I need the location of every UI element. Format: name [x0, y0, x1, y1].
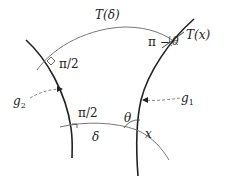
delta-arc	[60, 123, 169, 160]
label-theta-top: θ	[172, 36, 179, 47]
label-delta: δ	[92, 131, 99, 143]
label-pi-half-top: π/2	[59, 58, 79, 70]
label-x: x	[145, 128, 152, 140]
label-theta: θ	[124, 112, 131, 124]
label-pi-minus: π −	[148, 36, 170, 48]
g1-arrowhead	[142, 97, 148, 103]
label-g2-main: g	[13, 94, 21, 108]
label-g2: g2	[13, 95, 26, 110]
label-g1: g1	[181, 92, 194, 107]
g1-arrow	[143, 98, 180, 100]
label-t-x: T(x)	[186, 29, 210, 41]
right-angle-mark-top	[47, 57, 55, 65]
label-pi-half-bottom: π/2	[78, 107, 98, 119]
label-g1-main: g	[181, 91, 189, 105]
label-g2-sub: 2	[21, 101, 26, 110]
label-g1-sub: 1	[189, 98, 194, 107]
label-t-delta: T(δ)	[95, 9, 120, 21]
